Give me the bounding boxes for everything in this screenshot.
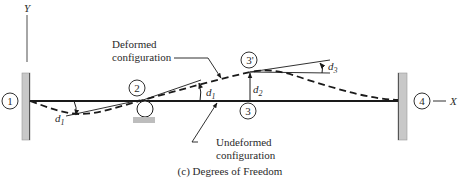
svg-text:2: 2 [134, 82, 140, 94]
right-fixed-wall [398, 73, 407, 140]
dof-d2-label: d2 [253, 83, 263, 98]
x-axis-label: X [449, 95, 458, 107]
y-axis-label: Y [24, 2, 32, 14]
tangent-line-node3p [250, 60, 330, 72]
figure-caption: (c) Degrees of Freedom [178, 165, 283, 178]
deformed-configuration-callout: Deformed configuration [112, 38, 221, 78]
rotation-arrow-d1-mid [199, 83, 201, 101]
svg-text:configuration: configuration [216, 149, 276, 161]
node-2: 2 [129, 80, 145, 96]
degrees-of-freedom-diagram: Y d1 d1 d2 d3 1 [0, 0, 460, 180]
tangent-line-node2 [143, 80, 201, 100]
left-fixed-wall [22, 73, 30, 140]
dof-d1-mid-label: d1 [206, 86, 216, 101]
node-3-prime: 3' [241, 52, 257, 68]
svg-text:3': 3' [246, 54, 254, 66]
rotation-arrow-d3 [320, 63, 323, 73]
horizontal-reference-node3p [250, 72, 330, 73]
svg-text:Deformed: Deformed [112, 38, 157, 50]
x-axis-label-group: X [433, 95, 458, 107]
node-3: 3 [240, 103, 256, 119]
dof-d1-left-label: d1 [55, 112, 65, 127]
svg-text:1: 1 [7, 95, 13, 107]
svg-text:4: 4 [419, 95, 425, 107]
svg-text:configuration: configuration [112, 51, 172, 63]
node-4: 4 [414, 93, 430, 109]
svg-text:Undeformed: Undeformed [216, 136, 272, 148]
svg-text:3: 3 [245, 105, 251, 117]
tangent-line-node1 [66, 100, 140, 116]
roller-support [133, 101, 155, 123]
undeformed-configuration-callout: Undeformed configuration [192, 103, 276, 161]
node-1: 1 [2, 93, 18, 109]
y-axis: Y [24, 2, 32, 62]
